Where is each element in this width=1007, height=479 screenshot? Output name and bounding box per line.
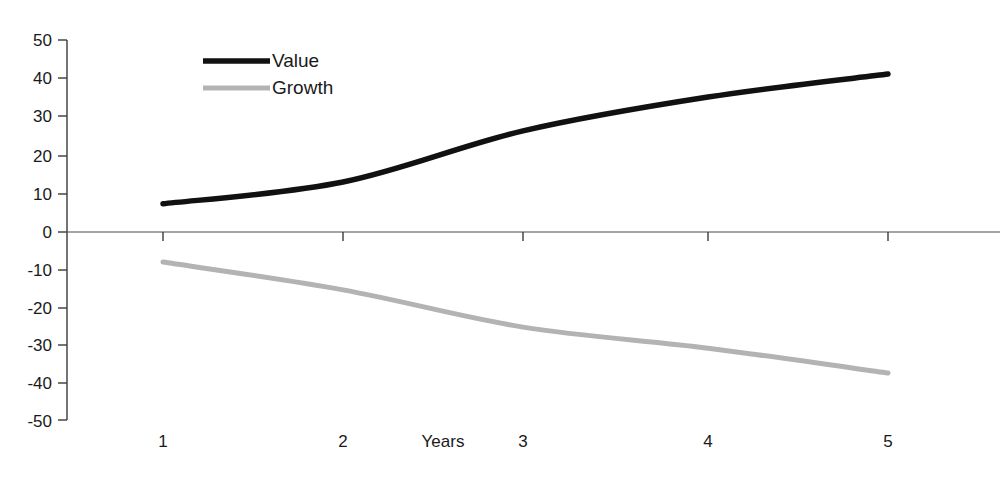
- x-axis-tick-label: 5: [883, 432, 892, 451]
- x-axis-title: Years: [422, 432, 465, 451]
- y-axis-tick-label: -50: [27, 412, 52, 431]
- x-axis-tick-label: 3: [518, 432, 527, 451]
- legend-label-growth: Growth: [272, 77, 333, 98]
- y-axis-tick-label: 10: [33, 185, 52, 204]
- x-axis-tick-label: 1: [158, 432, 167, 451]
- y-axis-tick-label: -40: [27, 374, 52, 393]
- x-axis-tick-label: 4: [703, 432, 712, 451]
- legend-label-value: Value: [272, 50, 319, 71]
- y-axis-tick-label: 0: [43, 223, 52, 242]
- y-axis-tick-label: 50: [33, 31, 52, 50]
- y-axis-tick-label: 40: [33, 69, 52, 88]
- chart-background: [0, 0, 1007, 479]
- y-axis-tick-label: -10: [27, 261, 52, 280]
- y-axis-tick-label: -20: [27, 299, 52, 318]
- chart-canvas: 50 40 30 20 10 0 -10 -20 -30 -40 -50 1 2…: [0, 0, 1007, 479]
- y-axis-tick-label: -30: [27, 336, 52, 355]
- y-axis-tick-label: 30: [33, 107, 52, 126]
- x-axis-tick-label: 2: [338, 432, 347, 451]
- line-chart: 50 40 30 20 10 0 -10 -20 -30 -40 -50 1 2…: [0, 0, 1007, 479]
- y-axis-tick-label: 20: [33, 147, 52, 166]
